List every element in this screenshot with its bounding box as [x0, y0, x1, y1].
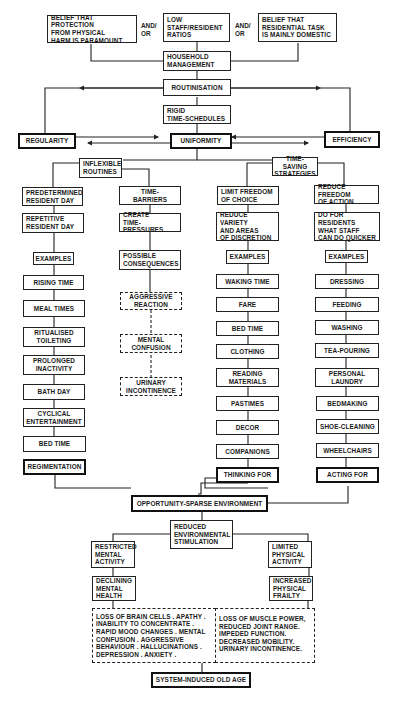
system-induced-old-age-box: SYSTEM-INDUCED OLD AGE — [151, 672, 251, 688]
rising-time-box: RISING TIME — [23, 275, 84, 290]
declining-mental-health-box: DECLINING MENTAL HEALTH — [92, 576, 136, 601]
tea-pouring-box: TEA-POURING — [315, 343, 379, 358]
efficiency-box: EFFICIENCY — [324, 131, 380, 148]
bed-time-box-1: BED TIME — [23, 436, 86, 452]
reduce-variety-box: REDUCE VARIETY AND AREAS OF DISCRETION — [216, 212, 279, 241]
meal-times-box: MEAL TIMES — [23, 300, 85, 317]
possible-consequences-box: POSSIBLE CONSEQUENCES — [119, 250, 181, 270]
ritualised-toileting-box: RITUALISED TOILETING — [23, 327, 85, 347]
acting-for-box: ACTING FOR — [316, 467, 379, 483]
washing-box: WASHING — [315, 320, 379, 335]
flow-diagram: BELIEF THAT PROTECTION FROM PHYSICAL HAR… — [0, 0, 396, 703]
waking-time-box: WAKING TIME — [216, 274, 279, 289]
routinisation-box: ROUTINISATION — [163, 79, 231, 96]
predetermined-day-box: PREDETERMINED RESIDENT DAY — [22, 187, 83, 206]
do-for-residents-box: DO FOR RESIDENTS WHAT STAFF CAN DO QUICK… — [314, 212, 380, 241]
cause-staff-ratio-box: LOW STAFF/RESIDENT RATIOS — [163, 13, 230, 42]
repetitive-day-box: REPETITIVE RESIDENT DAY — [22, 213, 84, 233]
feeding-box: FEEDING — [315, 297, 379, 312]
create-time-pressures-box: CREATE TIME-PRESSURES — [119, 213, 181, 232]
and-or-label-1: AND/ OR — [141, 22, 157, 37]
companions-box: COMPANIONS — [216, 444, 279, 459]
thinking-for-box: THINKING FOR — [216, 467, 279, 483]
reduced-stimulation-box: REDUCED ENVIRONMENTAL STIMULATION — [170, 520, 233, 549]
time-saving-strategies-box: TIME-SAVING STRATEGIES — [272, 157, 318, 176]
cause-protection-box: BELIEF THAT PROTECTION FROM PHYSICAL HAR… — [47, 15, 137, 43]
bedmaking-box: BEDMAKING — [316, 396, 379, 411]
personal-laundry-box: PERSONAL LAUNDRY — [315, 368, 379, 387]
limited-physical-activity-box: LIMITED PHYSICAL ACTIVITY — [268, 541, 312, 568]
regularity-box: REGULARITY — [18, 133, 76, 149]
rigid-time-schedules-box: RIGID TIME-SCHEDULES — [163, 105, 231, 124]
wheelchairs-box: WHEELCHAIRS — [316, 443, 379, 458]
limit-freedom-choice-box: LIMIT FREEDOM OF CHOICE — [217, 186, 279, 205]
bed-time-box-2: BED TIME — [216, 321, 279, 336]
aggressive-reaction-box: AGGRESSIVE REACTION — [120, 292, 182, 310]
inflexible-routines-box: INFLEXIBLE ROUTINES — [79, 158, 122, 178]
bath-day-box: BATH DAY — [23, 384, 85, 400]
restricted-mental-activity-box: RESTRICTED MENTAL ACTIVITY — [91, 541, 135, 568]
reduce-freedom-action-box: REDUCE FREEDOM OF ACTION — [314, 185, 379, 204]
uniformity-box: UNIFORMITY — [170, 133, 232, 149]
prolonged-inactivity-box: PROLONGED INACTIVITY — [23, 355, 85, 375]
mental-effects-box: LOSS OF BRAIN CELLS . APATHY . INABILITY… — [92, 608, 216, 663]
mental-confusion-box: MENTAL CONFUSION — [120, 334, 182, 353]
cyclical-entertainment-box: CYCLICAL ENTERTAINMENT — [23, 408, 85, 427]
cause-domestic-box: BELIEF THAT RESIDENTIAL TASK IS MAINLY D… — [258, 13, 337, 42]
opportunity-sparse-environment-box: OPPORTUNITY-SPARSE ENVIRONMENT — [131, 495, 268, 512]
reading-materials-box: READING MATERIALS — [216, 368, 279, 387]
examples-box-3: EXAMPLES — [325, 250, 368, 263]
decor-box: DECOR — [216, 420, 279, 435]
regimentation-box: REGIMENTATION — [23, 459, 86, 475]
increased-physical-frailty-box: INCREASED PHYSICAL FRAILTY — [269, 576, 313, 601]
examples-box-1: EXAMPLES — [33, 252, 74, 265]
examples-box-2: EXAMPLES — [226, 250, 269, 264]
urinary-incontinence-box: URINARY INCONTINENCE — [120, 377, 182, 396]
household-management-box: HOUSEHOLD MANAGEMENT — [163, 51, 231, 71]
and-or-label-2: AND/ OR — [235, 22, 251, 37]
shoe-cleaning-box: SHOE-CLEANING — [316, 419, 379, 434]
clothing-box: CLOTHING — [216, 344, 279, 359]
physical-effects-box: LOSS OF MUSCLE POWER, REDUCED JOINT RANG… — [215, 608, 315, 663]
dressing-box: DRESSING — [315, 274, 379, 289]
fare-box: FARE — [216, 297, 279, 312]
pastimes-box: PASTIMES — [216, 396, 279, 411]
time-barriers-box: TIME- BARRIERS — [119, 186, 181, 205]
